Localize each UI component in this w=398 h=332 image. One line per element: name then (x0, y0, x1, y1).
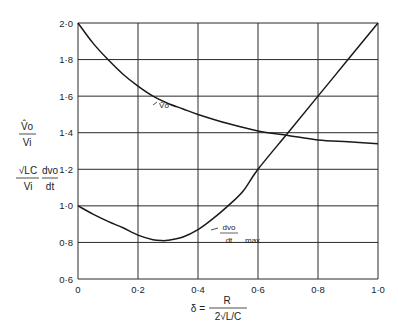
x-tick-label: 1·0 (371, 284, 385, 295)
y-label-bottom-den-b: dt (46, 181, 55, 192)
x-tick-label: 0·4 (191, 284, 205, 295)
series-vo-curve (78, 23, 378, 144)
y-label-bottom-den-a: Vi (24, 181, 33, 192)
x-tick-label: 0·2 (131, 284, 145, 295)
y-tick-label: 1·6 (59, 91, 73, 102)
series (78, 23, 378, 241)
y-tick-label: 2·0 (59, 18, 73, 29)
x-label: δ = R 2√L/C (191, 295, 247, 322)
x-label-numerator: R (223, 295, 230, 306)
y-label-bottom-num-a: √LC (19, 165, 37, 176)
annotation-dvdt: dvo dt max. (211, 223, 262, 245)
annotation-dv-den: dt (226, 236, 233, 245)
y-tick-label: 1·4 (59, 127, 73, 138)
annotation-vo: V̂o (153, 101, 169, 110)
y-tick-label: 0·6 (59, 274, 73, 285)
x-label-lhs: δ = (191, 303, 205, 314)
x-label-denominator: 2√L/C (215, 311, 242, 322)
x-tick-label: 0·8 (311, 284, 325, 295)
chart: 00·20·40·60·81·00·60·81·01·21·41·61·82·0… (0, 0, 398, 332)
annotation-vo-text: V̂o (159, 101, 169, 110)
y-label-top-denominator: Vi (23, 137, 32, 148)
annotation-dv-num: dvo (223, 223, 236, 232)
y-tick-label: 1·0 (59, 200, 73, 211)
y-label-bottom-num-b: dvo (42, 165, 59, 176)
y-tick-label: 0·8 (59, 237, 73, 248)
y-tick-label: 1·8 (59, 54, 73, 65)
y-label-top: V̂o Vi (19, 119, 36, 148)
series-dvdt-curve (78, 23, 378, 241)
y-tick-label: 1·2 (59, 164, 73, 175)
y-label-top-numerator: V̂o (21, 119, 34, 132)
x-tick-label: 0·6 (251, 284, 265, 295)
x-tick-label: 0 (75, 284, 80, 295)
annotation-dv-max: max. (245, 236, 262, 245)
y-label-bottom: √LC Vi dvo dt (16, 165, 58, 192)
